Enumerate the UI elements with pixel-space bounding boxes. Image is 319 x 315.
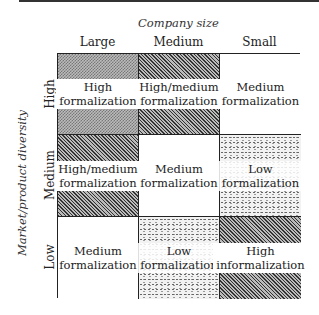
column-label-small: Small — [219, 35, 300, 49]
cell-low-large: Mediumformalization — [58, 217, 139, 299]
cell-medium-small: Lowformalization — [220, 135, 301, 217]
cell-label: High/mediumformalization — [136, 79, 221, 109]
cell-low-medium: Lowformalization — [139, 217, 220, 299]
x-axis-title: Company size — [0, 16, 319, 30]
cell-label: Lowformalization — [137, 243, 220, 273]
formalization-matrix: Highformalization High/mediumformalizati… — [57, 53, 300, 298]
cell-label: Lowformalization — [219, 161, 302, 191]
cell-label: Mediumformalization — [137, 161, 220, 191]
cell-label: Highinformalization — [213, 243, 307, 273]
cell-medium-large: High/mediumformalization — [58, 135, 139, 217]
cell-label: Mediumformalization — [219, 79, 302, 109]
top-rule — [19, 0, 319, 2]
column-label-large: Large — [57, 35, 138, 49]
cell-high-medium: High/mediumformalization — [139, 54, 220, 135]
cell-medium-medium: Mediumformalization — [139, 135, 220, 217]
cell-label: Mediumformalization — [56, 243, 139, 273]
cell-high-large: Highformalization — [58, 54, 139, 135]
cell-label: Highformalization — [56, 79, 139, 109]
y-axis-title: Market/product diversity — [15, 103, 29, 263]
column-label-medium: Medium — [138, 35, 219, 49]
cell-high-small: Mediumformalization — [220, 54, 301, 135]
cell-low-small: Highinformalization — [220, 217, 301, 299]
cell-label: High/mediumformalization — [55, 161, 140, 191]
